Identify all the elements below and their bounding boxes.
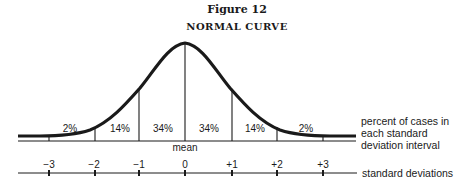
percent-label-plus1-plus2: 14%	[245, 123, 265, 134]
percent-label-tail-right: 2%	[299, 123, 314, 134]
tick-label-zero: 0	[182, 159, 188, 170]
normal-curve-figure: Figure 12 NORMAL CURVE 2% 14% 34% 34% 14…	[0, 0, 472, 189]
percent-label-minus1-mean: 34%	[153, 123, 173, 134]
tick-label-plus-2: +2	[271, 159, 283, 170]
percent-caption-line-3: deviation interval	[361, 139, 440, 151]
tick-label-plus-3: +3	[317, 159, 329, 170]
tick-label-minus-3: −3	[43, 159, 55, 170]
percent-caption-line-2: each standard	[361, 127, 428, 139]
figure-title: NORMAL CURVE	[186, 21, 288, 32]
percent-label-mean-plus1: 34%	[199, 123, 219, 134]
percent-caption-line-1: percent of cases in	[361, 115, 449, 127]
mean-label: mean	[172, 142, 197, 153]
percent-label-minus2-minus1: 14%	[110, 123, 130, 134]
axis-caption: standard deviations	[362, 167, 453, 179]
figure-number: Figure 12	[207, 3, 267, 16]
sd-dividers	[49, 43, 323, 141]
tick-label-plus-1: +1	[226, 159, 238, 170]
percent-label-tail-left: 2%	[63, 123, 78, 134]
tick-label-minus-1: −1	[133, 159, 145, 170]
tick-label-minus-2: −2	[88, 159, 100, 170]
